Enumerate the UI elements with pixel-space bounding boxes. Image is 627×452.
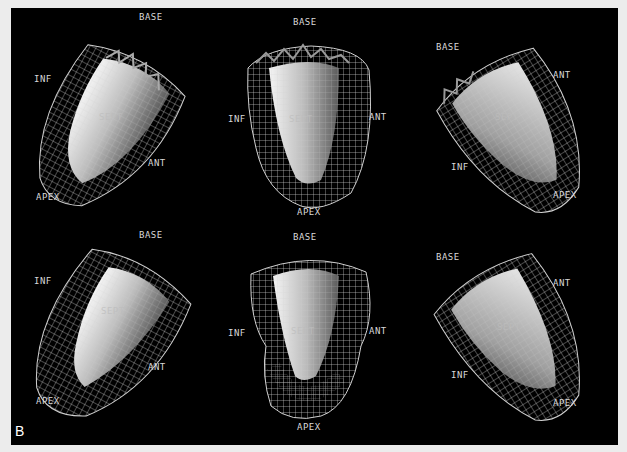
label-inf: INF <box>451 370 469 380</box>
label-inf: INF <box>34 74 52 84</box>
label-base: BASE <box>293 17 317 27</box>
heart-model-bottom-left: BASE INF SEPT ANT APEX <box>11 226 211 444</box>
label-inf: INF <box>34 276 52 286</box>
label-sept: SEPT <box>497 322 521 332</box>
label-apex: APEX <box>297 207 321 217</box>
label-sept: SEPT <box>289 114 313 124</box>
label-ant: ANT <box>369 112 387 122</box>
label-ant: ANT <box>553 70 571 80</box>
label-base: BASE <box>436 42 460 52</box>
label-base: BASE <box>436 252 460 262</box>
label-ant: ANT <box>148 362 166 372</box>
label-ant: ANT <box>148 158 166 168</box>
label-sept: SEPT <box>495 112 519 122</box>
label-apex: APEX <box>553 190 577 200</box>
label-apex: APEX <box>553 398 577 408</box>
label-inf: INF <box>228 114 246 124</box>
label-inf: INF <box>451 162 469 172</box>
heart-model-bottom-right: BASE ANT SEPT INF APEX <box>411 226 618 444</box>
heart-model-bottom-center: BASE INF SEPT ANT APEX <box>211 226 411 444</box>
label-sept: SEPT <box>99 112 123 122</box>
label-sept: SEPT <box>101 306 125 316</box>
figure-panel: BASE INF SEPT ANT APEX BASE INF SEPT ANT… <box>11 8 618 445</box>
label-ant: ANT <box>369 326 387 336</box>
label-base: BASE <box>139 12 163 22</box>
label-apex: APEX <box>36 396 60 406</box>
label-base: BASE <box>139 230 163 240</box>
heart-model-top-right: BASE ANT SEPT INF APEX <box>411 8 618 226</box>
heart-model-top-left: BASE INF SEPT ANT APEX <box>11 8 211 226</box>
label-apex: APEX <box>297 422 321 432</box>
heart-model-top-center: BASE INF SEPT ANT APEX <box>211 8 411 226</box>
label-base: BASE <box>293 232 317 242</box>
label-inf: INF <box>228 328 246 338</box>
wireframe-heart-icon <box>11 226 211 444</box>
label-sept: SEPT <box>291 326 315 336</box>
panel-letter: B <box>15 423 24 439</box>
label-ant: ANT <box>553 278 571 288</box>
label-apex: APEX <box>36 192 60 202</box>
